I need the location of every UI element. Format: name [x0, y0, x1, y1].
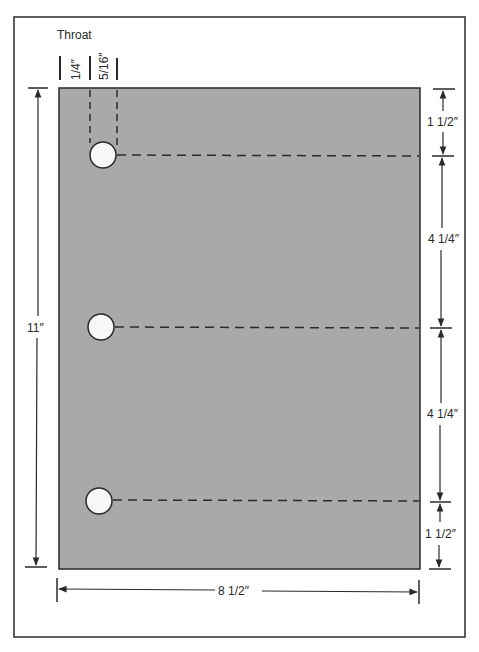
top-hole — [90, 142, 116, 168]
middle-hole-centerline — [115, 327, 419, 328]
throat-label: Throat — [57, 28, 92, 42]
spacing-label-top: 1 1/2″ — [427, 115, 459, 129]
middle-hole — [88, 314, 114, 340]
height-label: 11″ — [27, 321, 44, 335]
throat-offset-quarter: 1/4″ — [69, 58, 83, 80]
spacing-label-mid1: 4 1/4″ — [428, 232, 460, 246]
spacing-label-mid2: 4 1/4″ — [427, 407, 459, 421]
bottom-hole-centerline — [113, 500, 419, 501]
bottom-hole — [86, 488, 112, 514]
height-dimension-lower — [36, 338, 37, 565]
spacing-label-bottom: 1 1/2″ — [425, 527, 457, 541]
throat-offset-five-sixteenths: 5/16″ — [97, 52, 111, 80]
width-label: 8 1/2″ — [218, 584, 250, 598]
punch-layout-diagram: Throat 1/4″ 5/16″ 11″ 8 1/2″ 1 1/2″ 4 1/… — [0, 0, 479, 652]
width-dimension-left — [59, 589, 215, 590]
width-dimension-right — [262, 591, 417, 592]
top-hole-centerline — [117, 155, 419, 156]
